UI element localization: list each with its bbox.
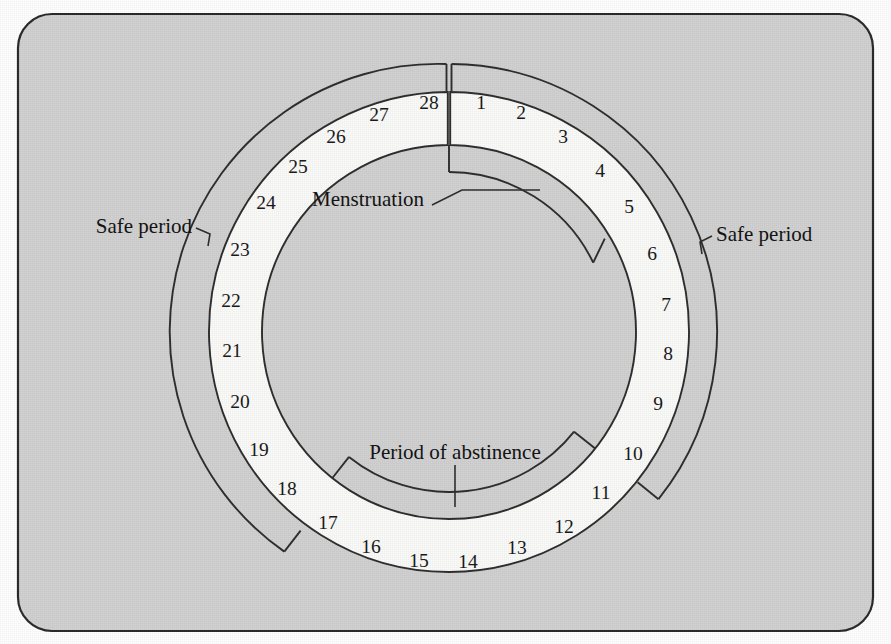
- day-number-13: 13: [507, 537, 527, 558]
- day-number-4: 4: [595, 160, 605, 181]
- day-number-19: 19: [249, 439, 269, 460]
- day-number-2: 2: [516, 102, 526, 123]
- day-number-15: 15: [409, 550, 429, 571]
- day-number-23: 23: [230, 239, 250, 260]
- day-number-22: 22: [221, 290, 241, 311]
- label-safe-period-left: Safe period: [96, 214, 193, 238]
- day-number-1: 1: [476, 92, 486, 113]
- day-number-5: 5: [624, 196, 634, 217]
- day-number-12: 12: [554, 516, 574, 537]
- label-safe-period-right: Safe period: [716, 222, 813, 246]
- day-number-9: 9: [653, 393, 663, 414]
- day-number-26: 26: [326, 126, 346, 147]
- day-number-3: 3: [558, 126, 568, 147]
- day-number-14: 14: [458, 551, 478, 572]
- day-number-17: 17: [318, 512, 338, 533]
- figure-root: 1234567891011121314151617181920212223242…: [0, 0, 891, 644]
- menstrual-cycle-diagram: 1234567891011121314151617181920212223242…: [0, 0, 891, 644]
- day-number-7: 7: [661, 294, 671, 315]
- day-number-8: 8: [663, 343, 673, 364]
- day-number-11: 11: [592, 482, 611, 503]
- day-number-16: 16: [361, 536, 381, 557]
- day-number-28: 28: [419, 92, 439, 113]
- day-number-20: 20: [230, 391, 250, 412]
- day-number-25: 25: [288, 156, 308, 177]
- day-number-21: 21: [222, 340, 242, 361]
- label-menstruation: Menstruation: [312, 187, 424, 211]
- day-number-10: 10: [623, 443, 643, 464]
- day-number-18: 18: [277, 478, 297, 499]
- day-number-24: 24: [256, 192, 276, 213]
- day-number-27: 27: [369, 104, 389, 125]
- day-number-6: 6: [647, 243, 657, 264]
- label-period-of-abstinence: Period of abstinence: [369, 440, 540, 464]
